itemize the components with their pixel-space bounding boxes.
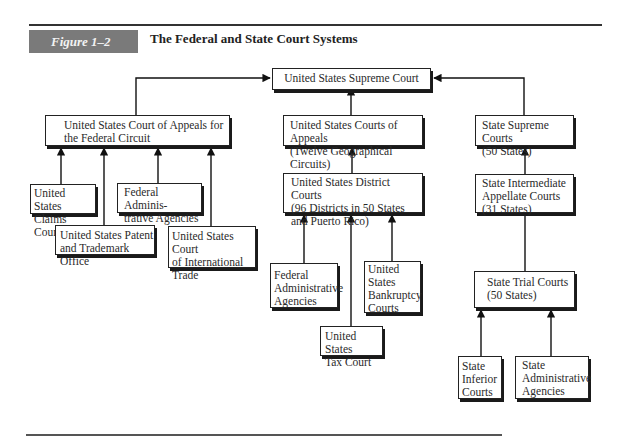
node-claims-court: United States Claims Court bbox=[30, 184, 96, 214]
node-tax-court: United States Tax Court bbox=[320, 326, 383, 356]
node-state-intermediate: State Intermediate Appellate Courts (31 … bbox=[475, 174, 574, 213]
node-federal-circuit: United States Court of Appeals for the F… bbox=[45, 115, 230, 146]
node-state-supreme: State Supreme Courts (50 States) bbox=[475, 115, 574, 146]
node-supreme-court: United States Supreme Court bbox=[272, 68, 431, 90]
node-state-trial-courts: State Trial Courts (50 States) bbox=[474, 271, 575, 308]
node-district-courts: United States District Courts (96 Distri… bbox=[283, 173, 423, 213]
bottom-rule bbox=[26, 434, 502, 436]
edge-state-supreme-to-supreme bbox=[434, 78, 524, 115]
node-federal-admin-agencies-2: Federal Administrative Agencies bbox=[270, 263, 338, 308]
node-international-trade: United States Court of International Tra… bbox=[168, 226, 256, 268]
node-patent-office: United States Patent and Trademark Offic… bbox=[55, 225, 155, 255]
node-courts-of-appeals: United States Courts of Appeals (Twelve … bbox=[283, 115, 423, 146]
edge-fed-circuit-to-supreme bbox=[136, 78, 270, 115]
node-federal-admin-agencies-1: Federal Adminis- trative Agencies bbox=[117, 183, 202, 213]
node-state-admin-agencies: State Administrative Agencies bbox=[515, 356, 589, 399]
node-state-inferior-courts: State Inferior Courts bbox=[458, 356, 502, 399]
node-bankruptcy-courts: United States Bankruptcy Courts bbox=[364, 261, 421, 313]
